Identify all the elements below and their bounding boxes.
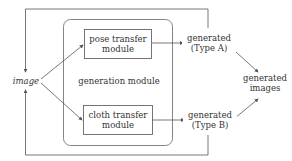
generation-module-text: generation module: [78, 76, 159, 86]
typeB-line2: (Type B): [183, 120, 237, 130]
pose-transfer-module: pose transfer module: [84, 34, 152, 54]
cloth-module-line2: module: [83, 120, 153, 130]
image-label: image: [13, 76, 39, 86]
edge-image-to-cloth: [41, 83, 82, 120]
final-line1: generated: [240, 73, 290, 83]
typeA-line1: generated: [182, 33, 236, 43]
edge-typeA-to-final: [236, 52, 258, 72]
generated-images-node: generated images: [240, 73, 290, 93]
edge-image-to-pose: [41, 45, 83, 79]
edge-typeB-to-final: [235, 99, 258, 118]
pose-module-line2: module: [84, 44, 152, 54]
typeA-line2: (Type A): [182, 43, 236, 53]
pose-module-line1: pose transfer: [84, 34, 152, 44]
cloth-module-line1: cloth transfer: [83, 110, 153, 120]
generated-type-b-node: generated (Type B): [183, 110, 237, 130]
image-node: image: [8, 76, 44, 86]
generation-module-label: generation module: [76, 76, 162, 86]
generated-type-a-node: generated (Type A): [182, 33, 236, 53]
diagram-canvas: image generation module pose transfer mo…: [0, 0, 292, 161]
final-line2: images: [240, 83, 290, 93]
typeB-line1: generated: [183, 110, 237, 120]
cloth-transfer-module: cloth transfer module: [83, 110, 153, 130]
